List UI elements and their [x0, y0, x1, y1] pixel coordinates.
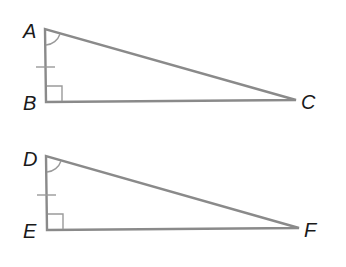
vertex-label-e: E: [23, 220, 37, 242]
vertex-label-c: C: [301, 91, 316, 113]
right-angle-mark-e: [48, 214, 63, 229]
congruent-triangles-diagram: A B C D E F: [0, 0, 346, 267]
vertex-label-f: F: [304, 219, 318, 241]
angle-arc-d: [47, 161, 61, 172]
triangle-def-outline: [46, 156, 299, 230]
vertex-label-a: A: [22, 20, 36, 42]
right-angle-mark-b: [47, 86, 62, 101]
angle-arc-a: [46, 34, 60, 45]
vertex-label-b: B: [23, 92, 36, 114]
vertex-label-d: D: [23, 148, 37, 170]
triangle-def: D E F: [23, 148, 318, 242]
triangle-abc-outline: [45, 29, 296, 102]
triangle-abc: A B C: [22, 20, 316, 114]
